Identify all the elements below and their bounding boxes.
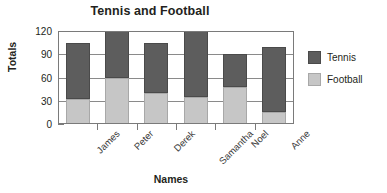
legend-label: Football: [327, 74, 363, 85]
x-axis-tick-label: Peter: [132, 128, 156, 152]
gridline: [58, 101, 294, 102]
legend-item[interactable]: Football: [308, 72, 384, 86]
plot-area: [58, 31, 294, 124]
bar-group[interactable]: [223, 31, 247, 124]
x-axis-tick-label: Samantha: [216, 128, 254, 166]
bar-group[interactable]: [262, 31, 286, 124]
gridline: [58, 78, 294, 79]
chart-legend: TennisFootball: [308, 50, 384, 94]
bar-segment-tennis[interactable]: [262, 47, 286, 113]
bar-group[interactable]: [66, 31, 90, 124]
y-axis-tick-label: 60: [22, 72, 52, 83]
x-axis-tick-labels: JamesPeterDerekSamanthaNoelAnne: [58, 128, 318, 172]
bar-segment-tennis[interactable]: [144, 43, 168, 93]
x-axis-tick-label: Noel: [249, 128, 271, 150]
bar-group[interactable]: [105, 31, 129, 124]
y-axis-tick-labels: 0306090120: [22, 31, 52, 124]
legend-swatch-tennis: [308, 51, 321, 64]
bar-segment-tennis[interactable]: [105, 31, 129, 78]
x-axis-tick-label: Derek: [172, 128, 198, 154]
bar-segment-football[interactable]: [105, 78, 129, 125]
y-axis-title: Totals: [6, 12, 18, 72]
x-axis-title: Names: [56, 173, 286, 185]
bar-group[interactable]: [184, 31, 208, 124]
y-axis-tick-label: 0: [22, 119, 52, 130]
bar-segment-football[interactable]: [184, 97, 208, 124]
bar-segment-football[interactable]: [223, 87, 247, 124]
legend-swatch-football: [308, 73, 321, 86]
bar-segment-football[interactable]: [144, 93, 168, 124]
bar-segment-tennis[interactable]: [66, 43, 90, 99]
bar-group[interactable]: [144, 31, 168, 124]
x-axis-tick-label: James: [94, 128, 122, 156]
legend-label: Tennis: [327, 52, 356, 63]
bar-segment-tennis[interactable]: [223, 54, 247, 87]
y-axis-tick-label: 120: [22, 26, 52, 37]
bar-segment-football[interactable]: [262, 112, 286, 124]
bar-segment-football[interactable]: [66, 99, 90, 124]
legend-item[interactable]: Tennis: [308, 50, 384, 64]
chart-title: Tennis and Football: [0, 4, 300, 18]
x-axis-tick-label: Anne: [289, 128, 312, 151]
chart-figure: Tennis and Football Totals 0306090120 Ja…: [0, 0, 387, 193]
bar-segment-tennis[interactable]: [184, 31, 208, 97]
y-axis-tick-label: 90: [22, 49, 52, 60]
y-axis-tick-label: 30: [22, 95, 52, 106]
gridline: [58, 54, 294, 55]
